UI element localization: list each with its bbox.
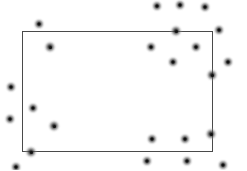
scatter-point-core [49, 46, 52, 49]
scatter-point [10, 161, 23, 171]
scatter-point [43, 40, 57, 54]
scatter-point-core [156, 5, 159, 8]
scatter-point-core [211, 74, 214, 77]
scatter-point-core [210, 133, 213, 136]
scatter-point-core [175, 30, 178, 33]
scatter-point-core [195, 46, 198, 49]
scatter-point [145, 41, 158, 54]
scatter-point [222, 56, 235, 69]
scatter-point [190, 41, 203, 54]
scatter-point [47, 119, 61, 133]
scatter-point-core [10, 86, 13, 89]
scatter-point-core [15, 166, 18, 169]
scatter-point-core [172, 61, 175, 64]
scatter-figure [0, 0, 247, 170]
scatter-point-core [146, 160, 149, 163]
scatter-point-core [204, 6, 207, 9]
scatter-point-core [184, 138, 187, 141]
plot-area [0, 0, 247, 170]
scatter-point-core [179, 4, 182, 7]
scatter-point [4, 113, 17, 126]
scatter-point [205, 68, 219, 82]
scatter-point-core [32, 107, 35, 110]
scatter-point [213, 24, 226, 37]
scatter-point [167, 56, 180, 69]
scatter-point-core [9, 118, 12, 121]
scatter-point-core [150, 46, 153, 49]
scatter-point [169, 24, 183, 38]
scatter-point [181, 155, 194, 168]
scatter-point [146, 133, 159, 146]
scatter-point-core [30, 151, 33, 154]
scatter-point [151, 0, 164, 13]
scatter-point-core [222, 164, 225, 167]
scatter-point-core [151, 138, 154, 141]
scatter-point [24, 145, 38, 159]
scatter-point [5, 81, 18, 94]
scatter-point [27, 102, 40, 115]
scatter-point-core [38, 23, 41, 26]
scatter-point [174, 0, 187, 12]
scatter-point [204, 127, 218, 141]
scatter-point [217, 159, 230, 171]
scatter-point [199, 1, 212, 14]
scatter-point-core [186, 160, 189, 163]
scatter-point [33, 18, 46, 31]
scatter-point [179, 133, 192, 146]
scatter-point-core [53, 125, 56, 128]
scatter-point-core [218, 29, 221, 32]
scatter-point-core [227, 61, 230, 64]
scatter-point [141, 155, 154, 168]
